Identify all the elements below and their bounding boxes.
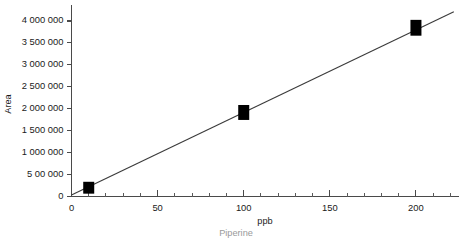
data-point-markers xyxy=(83,20,421,194)
y-axis-tick-labels: 05 00 0001 000 0001 500 0002 000 0002 50… xyxy=(22,14,64,201)
y-tick-label: 4 000 000 xyxy=(22,14,64,25)
y-tick-label: 1 000 000 xyxy=(22,146,64,157)
regression-line xyxy=(72,12,454,195)
x-tick-label: 200 xyxy=(408,202,424,213)
data-marker xyxy=(410,20,421,36)
series-caption: Piperine xyxy=(219,228,253,238)
y-tick-label: 3 500 000 xyxy=(22,36,64,47)
x-axis-minor-ticks xyxy=(89,193,451,197)
y-axis-ticks xyxy=(67,21,72,197)
y-tick-label: 0 xyxy=(58,190,63,201)
y-tick-label: 1 500 000 xyxy=(22,124,64,135)
y-tick-label: 2 000 000 xyxy=(22,102,64,113)
y-tick-label: 5 00 000 xyxy=(27,168,64,179)
x-tick-label: 100 xyxy=(236,202,252,213)
x-tick-label: 0 xyxy=(69,202,74,213)
y-tick-label: 2 500 000 xyxy=(22,80,64,91)
x-tick-label: 50 xyxy=(152,202,162,213)
calibration-chart: 05 00 0001 000 0001 500 0002 000 0002 50… xyxy=(0,0,463,238)
y-axis-title: Area xyxy=(3,93,13,113)
x-axis-title: ppb xyxy=(257,216,272,226)
data-marker xyxy=(238,105,249,120)
x-axis-tick-labels: 050100150200 xyxy=(69,202,424,213)
y-tick-label: 3 000 000 xyxy=(22,58,64,69)
x-tick-label: 150 xyxy=(322,202,338,213)
chart-plot-area: 05 00 0001 000 0001 500 0002 000 0002 50… xyxy=(0,0,463,238)
data-marker xyxy=(83,182,94,194)
